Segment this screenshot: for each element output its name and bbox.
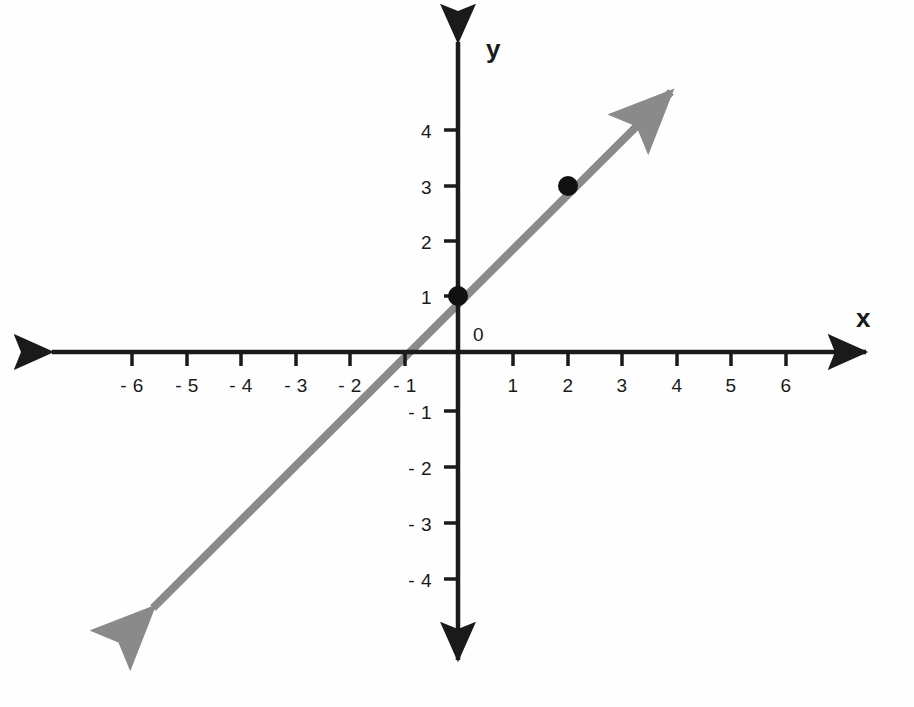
y-tick-label--4: - 4: [392, 571, 432, 590]
x-tick-label--2: - 2: [330, 376, 370, 395]
y-tick-label-3: 3: [398, 178, 432, 197]
y-tick-label--3: - 3: [392, 515, 432, 534]
x-tick-label-6: 6: [771, 376, 801, 395]
data-point-2-3: [558, 176, 578, 196]
y-axis-label: y: [486, 36, 500, 62]
x-tick-label-4: 4: [662, 376, 692, 395]
x-tick-label--6: - 6: [112, 376, 152, 395]
coordinate-plane-figure: y x 0 - 6 - 5 - 4 - 3 - 2 - 1 1 2 3 4 5 …: [0, 0, 914, 707]
x-tick-label--1: - 1: [385, 376, 425, 395]
x-tick-label--3: - 3: [276, 376, 316, 395]
x-tick-label-5: 5: [716, 376, 746, 395]
y-tick-label-4: 4: [398, 122, 432, 141]
graph-canvas: [0, 0, 914, 707]
x-tick-label--4: - 4: [221, 376, 261, 395]
x-tick-label-1: 1: [498, 376, 528, 395]
y-tick-label--2: - 2: [392, 459, 432, 478]
x-axis-label: x: [856, 305, 870, 331]
x-tick-label-3: 3: [607, 376, 637, 395]
y-tick-label--1: - 1: [392, 403, 432, 422]
y-tick-label-2: 2: [398, 233, 432, 252]
x-tick-label--5: - 5: [167, 376, 207, 395]
data-point-0-1: [448, 286, 468, 306]
x-tick-label-2: 2: [553, 376, 583, 395]
data-points: [448, 176, 578, 306]
y-tick-label-1: 1: [398, 288, 432, 307]
origin-label: 0: [473, 325, 484, 344]
